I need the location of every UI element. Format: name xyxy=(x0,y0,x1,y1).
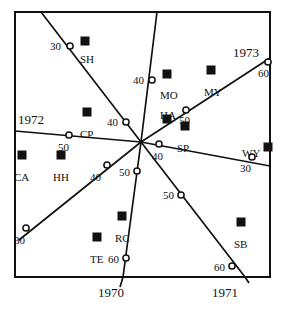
node-sh-30-label: 30 xyxy=(50,41,61,52)
node-rc-50 xyxy=(134,168,140,174)
node-1973-60-label: 60 xyxy=(258,68,269,79)
ray-te xyxy=(19,142,141,240)
station-mo-marker xyxy=(163,70,172,79)
node-so-50 xyxy=(183,107,189,113)
node-mo-40 xyxy=(149,77,155,83)
station-te-marker xyxy=(93,233,102,242)
node-hh-40 xyxy=(104,162,110,168)
station-wy-label: WY xyxy=(242,148,260,159)
station-wy-marker xyxy=(264,143,273,152)
station-rc-label: RC xyxy=(115,233,130,244)
station-hh-label: HH xyxy=(53,172,69,183)
node-1973-60 xyxy=(265,59,271,65)
year-1971: 1971 xyxy=(212,286,238,299)
node-te-30-label: 30 xyxy=(14,235,25,246)
station-sb-label: SB xyxy=(234,239,247,250)
node-sb-50 xyxy=(178,192,184,198)
node-rc-60 xyxy=(123,255,129,261)
node-sp-40 xyxy=(156,141,162,147)
station-my-label: MY xyxy=(204,87,222,98)
station-ca-label: CA xyxy=(14,172,29,183)
station-sb-marker xyxy=(237,218,246,227)
node-wy-30-label: 30 xyxy=(240,163,251,174)
node-1972-50-label: 50 xyxy=(58,142,69,153)
node-cp-40-label: 40 xyxy=(107,117,118,128)
node-hh-40-label: 40 xyxy=(90,172,101,183)
node-te-30 xyxy=(23,225,29,231)
station-te-label: TE xyxy=(90,254,103,265)
node-sp-40-label: 40 xyxy=(152,151,163,162)
station-ca-marker xyxy=(18,151,27,160)
year-1970: 1970 xyxy=(98,286,124,299)
station-cp-marker xyxy=(83,108,92,117)
station-sh-label: SH xyxy=(80,54,94,65)
station-rc-marker xyxy=(118,212,127,221)
node-sb-50-label: 50 xyxy=(163,190,174,201)
station-sh-marker xyxy=(81,37,90,46)
station-ha-label: HA xyxy=(160,110,176,121)
station-mo-label: MO xyxy=(160,90,178,101)
node-sb-60-label: 60 xyxy=(214,262,225,273)
station-cp-label: CP xyxy=(80,129,93,140)
node-rc-50-label: 50 xyxy=(119,167,130,178)
node-sh-30 xyxy=(67,43,73,49)
station-my-marker xyxy=(207,66,216,75)
node-sb-60 xyxy=(229,263,235,269)
node-1972-50 xyxy=(66,132,72,138)
year-1972: 1972 xyxy=(18,113,44,126)
year-1973: 1973 xyxy=(233,46,259,59)
figure-canvas: 3040605040504030405050306060SHMOMYCPHASP… xyxy=(0,0,285,310)
ray-1972 xyxy=(15,131,141,142)
node-rc-60-label: 60 xyxy=(108,254,119,265)
node-so-50-label: 50 xyxy=(179,115,190,126)
node-cp-40 xyxy=(123,119,129,125)
node-mo-40-label: 40 xyxy=(133,75,144,86)
ray-sb xyxy=(141,142,245,277)
station-sp-label: SP xyxy=(177,143,189,154)
